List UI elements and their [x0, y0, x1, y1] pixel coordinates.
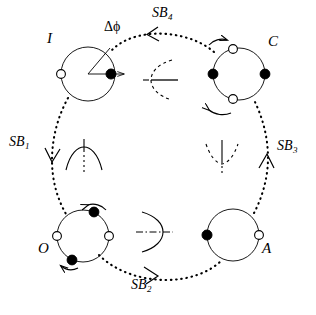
state-label-A: A	[262, 241, 271, 256]
filled-dot-C-left	[208, 69, 218, 79]
state-circle-O	[53, 204, 114, 270]
open-dot-I-left	[57, 70, 66, 79]
filled-dot-I-right	[106, 69, 116, 79]
transition-path-SB4	[112, 27, 214, 52]
transition-label-SB2: SB2	[131, 278, 152, 294]
state-label-O: O	[38, 241, 49, 256]
symbol-top-bracket	[143, 60, 178, 100]
cycle-diagram: I C A O SB1 SB2 SB3 SB4 Δϕ	[0, 0, 316, 315]
rotation-arrow-C-top	[209, 39, 227, 45]
open-dot-C-bottom	[229, 95, 238, 104]
phase-wedge-line-I	[88, 48, 110, 74]
filled-dot-O-upper	[89, 207, 99, 217]
transition-label-SB4-text: SB	[152, 5, 168, 20]
transition-label-SB3-sub: 3	[293, 145, 298, 155]
state-circle-C	[208, 39, 270, 114]
symbol-left-dome	[66, 139, 102, 172]
transition-path-SB2	[99, 255, 222, 284]
transition-label-SB1: SB1	[9, 135, 30, 151]
rotation-arrow-C-bottom	[209, 110, 231, 115]
rotation-arrow-O-lower	[61, 266, 78, 270]
state-label-C: C	[268, 34, 278, 49]
arrowhead-SB4	[147, 27, 159, 41]
arrowhead-SB3	[259, 154, 274, 168]
transition-label-SB2-sub: 2	[147, 284, 152, 294]
arrowhead-SB1	[45, 148, 60, 162]
transition-label-SB1-sub: 1	[25, 141, 30, 151]
state-circle-I	[57, 47, 124, 101]
open-dot-A-right	[255, 231, 264, 240]
transition-label-SB4-sub: 4	[168, 12, 173, 22]
transition-label-SB2-text: SB	[131, 277, 147, 292]
transition-label-SB3-text: SB	[277, 138, 293, 153]
open-dot-C-top	[229, 45, 238, 54]
phase-increment-label: Δϕ	[104, 20, 120, 34]
open-dot-O-right	[105, 232, 114, 241]
transition-path-SB3	[254, 100, 274, 213]
transition-label-SB1-text: SB	[9, 134, 25, 149]
state-label-I: I	[47, 31, 52, 46]
filled-dot-A-left	[202, 230, 212, 240]
filled-dot-O-lower	[67, 255, 77, 265]
state-circle-A	[202, 209, 263, 261]
symbol-bottom-bracket	[136, 212, 173, 252]
transition-label-SB3: SB3	[277, 139, 298, 155]
filled-dot-C-right	[260, 69, 270, 79]
transition-label-SB4: SB4	[152, 6, 173, 22]
open-dot-O-left	[53, 232, 62, 241]
symbol-right-valley	[206, 140, 238, 174]
transition-path-SB1	[45, 98, 68, 214]
